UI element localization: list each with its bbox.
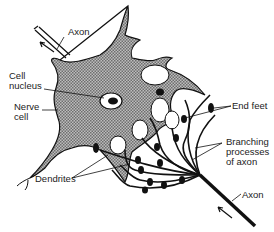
label-axon-top: Axon <box>68 26 90 37</box>
axon-incoming <box>200 175 255 226</box>
arrow-outgoing <box>40 42 54 52</box>
label-cell-nucleus-2: nucleus <box>9 80 42 91</box>
leader-end-feet <box>185 106 231 118</box>
label-dendrites: Dendrites <box>35 173 76 184</box>
label-end-feet: End feet <box>232 100 268 111</box>
label-branching-3: of axon <box>226 156 257 167</box>
label-axon-bottom: Axon <box>242 189 264 200</box>
arrow-incoming <box>218 207 232 218</box>
leader-axon-bottom <box>232 194 241 201</box>
label-nerve-cell-2: cell <box>14 111 28 122</box>
neuron-diagram: Axon Cell nucleus Nerve cell End feet Br… <box>0 0 274 232</box>
